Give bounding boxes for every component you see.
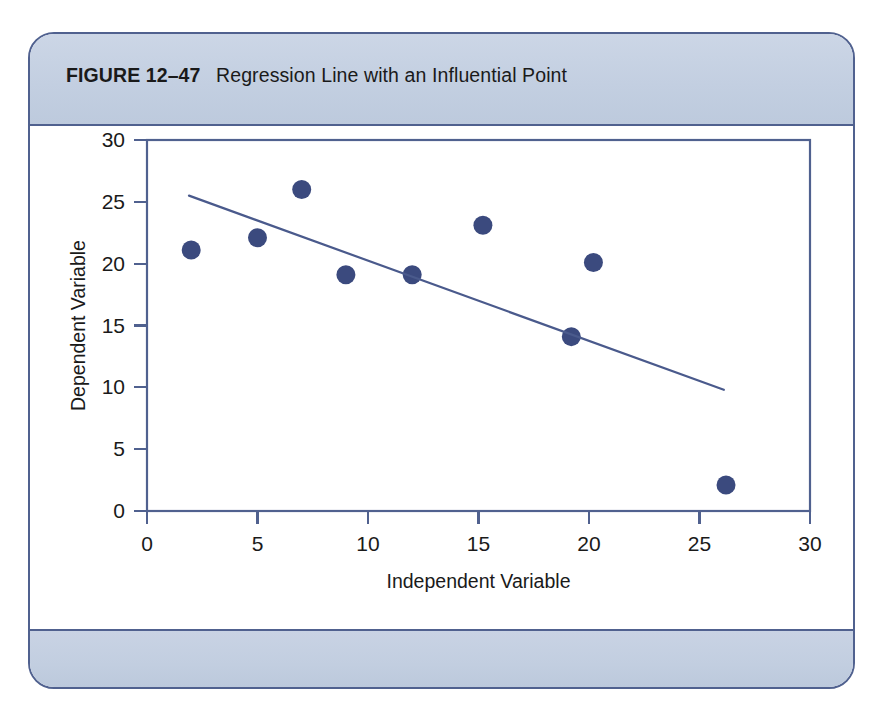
data-point-marker (292, 180, 311, 199)
data-point-marker (248, 228, 267, 247)
figure-frame: FIGURE 12–47 Regression Line with an Inf… (28, 32, 855, 689)
x-axis-tick-label: 0 (141, 532, 153, 555)
data-point-marker (473, 216, 492, 235)
figure-caption-band: FIGURE 12–47 Regression Line with an Inf… (30, 34, 853, 126)
regression-line (189, 196, 724, 390)
x-axis-tick-label: 30 (798, 532, 821, 555)
data-point-marker (717, 476, 736, 495)
x-axis-tick-label: 10 (356, 532, 379, 555)
data-point-marker (182, 241, 201, 260)
data-point-marker (584, 253, 603, 272)
x-axis-tick-label: 20 (577, 532, 600, 555)
y-axis-tick-label: 5 (113, 437, 125, 460)
x-axis-title: Independent Variable (387, 570, 571, 592)
scatter-chart: 051015202530051015202530Independent Vari… (30, 126, 852, 631)
data-point-marker (336, 265, 355, 284)
plot-area-border (147, 140, 810, 511)
y-axis-tick-label: 10 (102, 375, 125, 398)
figure-number-label: FIGURE 12–47 (66, 64, 201, 86)
y-axis-title: Dependent Variable (67, 240, 89, 411)
x-axis-tick-label: 5 (252, 532, 264, 555)
figure-footer-band (30, 629, 853, 687)
y-axis-tick-label: 15 (102, 314, 125, 337)
figure-caption-text: Regression Line with an Influential Poin… (216, 64, 567, 86)
x-axis-tick-label: 25 (688, 532, 711, 555)
y-axis-tick-label: 20 (102, 252, 125, 275)
y-axis-tick-label: 30 (102, 128, 125, 151)
x-axis-tick-label: 15 (467, 532, 490, 555)
chart-plot-region: 051015202530051015202530Independent Vari… (30, 126, 853, 631)
y-axis-tick-label: 0 (113, 499, 125, 522)
figure-caption: FIGURE 12–47 Regression Line with an Inf… (66, 64, 567, 87)
y-axis-tick-label: 25 (102, 190, 125, 213)
